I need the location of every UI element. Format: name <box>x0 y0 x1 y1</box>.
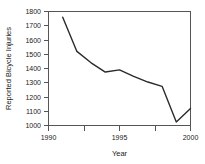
y-axis-ticks <box>44 12 49 126</box>
line-chart-figure: 1800 1700 1600 1500 1400 1300 1200 1100 … <box>0 0 205 164</box>
y-tick-label-1300: 1300 <box>25 79 41 86</box>
x-tick-label-1990: 1990 <box>41 134 57 141</box>
y-tick-label-1700: 1700 <box>25 22 41 29</box>
y-axis-title: Reported Bicycle Injuries <box>4 27 13 110</box>
x-tick-label-1995: 1995 <box>112 134 128 141</box>
y-tick-label-1200: 1200 <box>25 94 41 101</box>
y-tick-label-1600: 1600 <box>25 37 41 44</box>
data-series-line <box>63 17 191 122</box>
plot-frame <box>49 12 191 126</box>
y-axis-tick-labels: 1800 1700 1600 1500 1400 1300 1200 1100 … <box>25 8 41 129</box>
chart-canvas: 1800 1700 1600 1500 1400 1300 1200 1100 … <box>0 0 205 164</box>
x-axis-title: Year <box>112 149 128 158</box>
y-tick-label-1500: 1500 <box>25 51 41 58</box>
x-tick-label-2000: 2000 <box>183 134 199 141</box>
y-tick-label-1400: 1400 <box>25 65 41 72</box>
x-axis-tick-labels: 1990 1995 2000 <box>41 134 199 141</box>
y-tick-label-1100: 1100 <box>26 108 41 115</box>
y-tick-label-1800: 1800 <box>25 8 41 15</box>
x-axis-ticks <box>49 126 191 131</box>
y-tick-label-1000: 1000 <box>25 122 41 129</box>
